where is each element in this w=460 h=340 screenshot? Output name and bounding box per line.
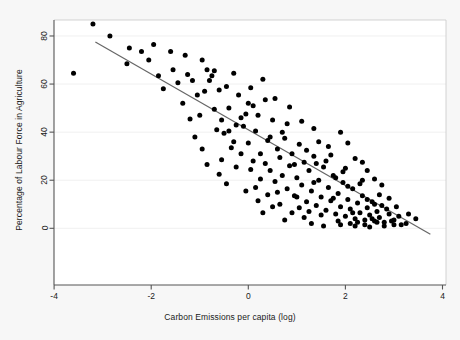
x-tick-label: -2 — [147, 291, 155, 301]
scatter-point — [280, 130, 285, 135]
scatter-point — [234, 122, 239, 127]
scatter-point — [294, 175, 299, 180]
scatter-point — [246, 140, 251, 145]
scatter-point — [316, 139, 321, 144]
scatter-point — [258, 151, 263, 156]
scatter-point — [328, 152, 333, 157]
scatter-point — [224, 84, 229, 89]
scatter-point — [285, 121, 290, 126]
scatter-point — [156, 73, 161, 78]
y-tick-label: 40 — [6, 127, 48, 137]
scatter-point — [311, 154, 316, 159]
scatter-point — [377, 215, 382, 220]
scatter-point — [251, 103, 256, 108]
scatter-point — [394, 204, 399, 209]
scatter-point — [353, 223, 358, 228]
scatter-point — [280, 173, 285, 178]
scatter-point — [275, 190, 280, 195]
scatter-point — [357, 181, 362, 186]
scatter-point — [246, 101, 251, 106]
scatter-point — [319, 195, 324, 200]
scatter-point — [365, 168, 370, 173]
scatter-point — [212, 107, 217, 112]
scatter-point — [248, 85, 253, 90]
scatter-point — [321, 164, 326, 169]
scatter-point — [236, 92, 241, 97]
scatter-point — [207, 78, 212, 83]
scatter-point — [270, 204, 275, 209]
scatter-point — [127, 46, 132, 51]
scatter-point — [168, 49, 173, 54]
x-tick-label: 4 — [440, 291, 445, 301]
scatter-point — [360, 160, 365, 165]
scatter-point — [124, 61, 129, 66]
scatter-point — [333, 211, 338, 216]
scatter-point — [379, 203, 384, 208]
scatter-point — [355, 201, 360, 206]
scatter-point — [343, 166, 348, 171]
scatter-point — [319, 213, 324, 218]
scatter-point — [304, 199, 309, 204]
scatter-point — [263, 161, 268, 166]
scatter-point — [289, 210, 294, 215]
scatter-point — [195, 92, 200, 97]
scatter-point — [302, 215, 307, 220]
scatter-point — [372, 177, 377, 182]
scatter-point — [326, 144, 331, 149]
scatter-point — [258, 177, 263, 182]
scatter-point — [260, 77, 265, 82]
scatter-point — [282, 136, 287, 141]
scatter-point — [302, 160, 307, 165]
plot-canvas — [0, 0, 460, 340]
scatter-point — [413, 216, 418, 221]
scatter-point — [214, 127, 219, 132]
x-tick-label: -4 — [50, 291, 58, 301]
y-tick-label: 60 — [6, 79, 48, 89]
scatter-point — [90, 21, 95, 26]
scatter-point — [205, 67, 210, 72]
scatter-point — [188, 116, 193, 121]
scatter-point — [377, 192, 382, 197]
scatter-point — [306, 168, 311, 173]
scatter-point — [285, 186, 290, 191]
scatter-point — [185, 72, 190, 77]
scatter-point — [229, 145, 234, 150]
scatter-point — [222, 131, 227, 136]
scatter-point — [387, 211, 392, 216]
scatter-point — [379, 183, 384, 188]
scatter-point — [231, 71, 236, 76]
scatter-point — [197, 113, 202, 118]
scatter-point — [180, 101, 185, 106]
scatter-point — [273, 96, 278, 101]
scatter-point — [314, 161, 319, 166]
scatter-point — [212, 68, 217, 73]
scatter-point — [183, 53, 188, 58]
scatter-point — [299, 119, 304, 124]
scatter-point — [287, 163, 292, 168]
scatter-point — [331, 196, 336, 201]
scatter-point — [350, 186, 355, 191]
scatter-point — [294, 195, 299, 200]
y-axis-title: Percentage of Labour Force in Agricultur… — [14, 0, 26, 300]
scatter-point — [340, 180, 345, 185]
scatter-point — [260, 210, 265, 215]
scatter-point — [146, 58, 151, 63]
scatter-point — [192, 134, 197, 139]
x-axis-title: Carbon Emissions per capita (log) — [0, 312, 460, 322]
scatter-point — [338, 222, 343, 227]
scatter-point — [323, 208, 328, 213]
scatter-point — [253, 185, 258, 190]
scatter-point — [248, 167, 253, 172]
scatter-point — [321, 223, 326, 228]
scatter-point — [277, 155, 282, 160]
scatter-point — [297, 142, 302, 147]
y-tick-label: 20 — [6, 175, 48, 185]
plot-area-background — [54, 20, 446, 285]
scatter-point — [217, 172, 222, 177]
scatter-point — [270, 118, 275, 123]
scatter-point — [71, 71, 76, 76]
scatter-point — [200, 58, 205, 63]
scatter-plot-figure: 020406080 Carbon Emissions per capita (l… — [0, 0, 460, 340]
scatter-point — [336, 191, 341, 196]
scatter-point — [404, 221, 409, 226]
